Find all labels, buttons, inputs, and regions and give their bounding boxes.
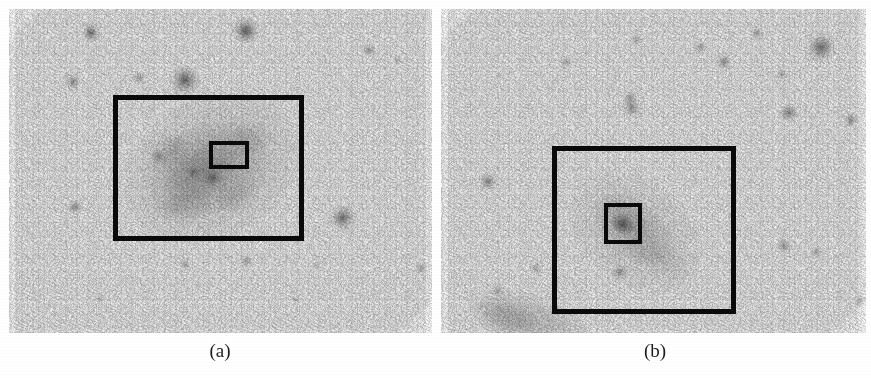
- sky-field-b: [441, 9, 866, 333]
- outer-box-b: [552, 146, 736, 314]
- panel-b-caption: (b): [644, 340, 666, 362]
- inner-box-b: [604, 203, 642, 244]
- sky-field-a: [9, 9, 432, 333]
- figure-panel-pair: (a) (b): [0, 0, 871, 378]
- panel-a-caption: (a): [209, 340, 230, 362]
- panel-b-image: [441, 9, 866, 333]
- panel-a-image: [9, 9, 432, 333]
- inner-box-a: [209, 141, 249, 169]
